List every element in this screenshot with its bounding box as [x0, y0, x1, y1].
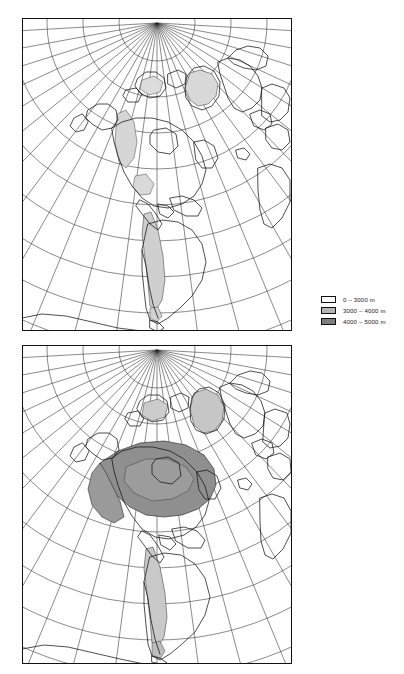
map-panel-top	[22, 18, 292, 331]
elevation-legend: 0 – 3000 m 3000 – 4000 m 4000 – 5000 m	[321, 295, 401, 328]
legend-item: 0 – 3000 m	[321, 295, 401, 304]
legend-label-4000-5000m: 4000 – 5000 m	[343, 317, 386, 326]
legend-swatch-3000-4000m	[321, 307, 336, 314]
legend-label-0-3000m: 0 – 3000 m	[343, 295, 375, 304]
legend-item: 3000 – 4000 m	[321, 306, 401, 315]
figure-root: 0 – 3000 m 3000 – 4000 m 4000 – 5000 m	[0, 0, 404, 674]
legend-swatch-0-3000m	[321, 296, 336, 303]
map-panel-bottom	[22, 345, 292, 664]
legend-label-3000-4000m: 3000 – 4000 m	[343, 306, 386, 315]
legend-item: 4000 – 5000 m	[321, 317, 401, 326]
legend-swatch-4000-5000m	[321, 318, 336, 325]
